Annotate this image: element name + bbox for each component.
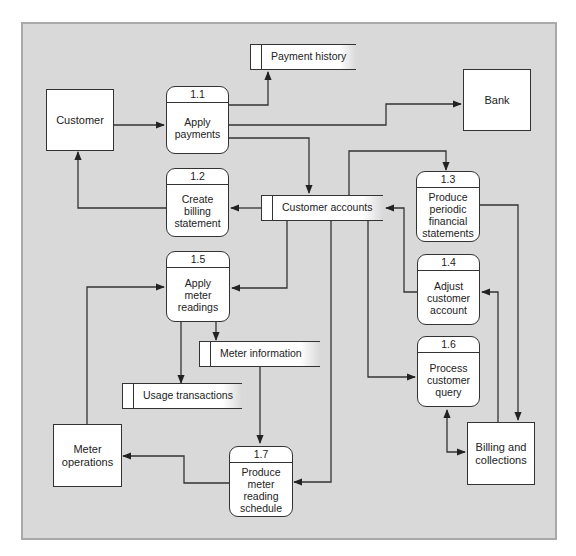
process-1-1-apply-payments: 1.1 Apply payments: [166, 86, 229, 154]
process-id: 1.2: [167, 169, 228, 185]
process-1-5-apply-meter-readings: 1.5 Apply meter readings: [166, 251, 230, 322]
process-name: Adjust customer account: [418, 271, 479, 324]
datastore-tab: [122, 383, 134, 409]
process-name-line: periodic: [430, 203, 467, 215]
process-name-line: query: [435, 386, 461, 398]
datastore-label: Payment history: [262, 44, 356, 70]
datastore-tab: [261, 195, 273, 221]
process-name-line: schedule: [240, 502, 282, 514]
process-name-line: readings: [178, 301, 218, 313]
process-name-line: customer: [427, 292, 470, 304]
entity-meter-operations-label-2: operations: [62, 456, 113, 469]
process-name-line: Apply: [185, 277, 211, 289]
process-1-7-produce-meter-reading-schedule: 1.7 Produce meter reading schedule: [229, 446, 293, 517]
process-id: 1.1: [167, 87, 228, 103]
datastore-tab: [199, 341, 211, 367]
process-id: 1.4: [418, 255, 479, 271]
datastore-label: Usage transactions: [134, 383, 242, 409]
process-name-line: Create: [182, 193, 214, 205]
process-name: Apply meter readings: [167, 268, 229, 321]
process-name-line: Produce: [241, 466, 280, 478]
process-name: Create billing statement: [167, 185, 228, 236]
process-name-line: statements: [422, 227, 473, 239]
process-name-line: Process: [430, 362, 468, 374]
process-id: 1.6: [418, 337, 479, 353]
process-id: 1.3: [417, 172, 479, 188]
entity-meter-operations-label-1: Meter: [73, 443, 101, 456]
process-1-4-adjust-customer-account: 1.4 Adjust customer account: [417, 254, 480, 325]
process-name-line: statement: [174, 217, 220, 229]
datastore-customer-accounts: Customer accounts: [261, 195, 383, 221]
datastore-tab: [250, 44, 262, 70]
process-name-line: customer: [427, 374, 470, 386]
process-name: Produce periodic financial statements: [417, 188, 479, 241]
process-name-line: payments: [175, 128, 221, 140]
process-name-line: financial: [429, 215, 468, 227]
datastore-payment-history: Payment history: [250, 44, 356, 70]
process-1-6-process-customer-query: 1.6 Process customer query: [417, 336, 480, 407]
process-name-line: meter: [248, 478, 275, 490]
entity-billing-and-collections: Billing and collections: [467, 422, 535, 485]
entity-bank-label: Bank: [484, 94, 509, 107]
process-name-line: billing: [184, 205, 211, 217]
entity-meter-operations: Meter operations: [53, 424, 122, 487]
entity-billing-label-2: collections: [475, 454, 526, 467]
process-id: 1.5: [167, 252, 229, 268]
process-name-line: meter: [185, 289, 212, 301]
entity-bank: Bank: [463, 69, 531, 131]
datastore-label: Meter information: [211, 341, 320, 367]
process-name: Produce meter reading schedule: [230, 463, 292, 516]
process-name: Process customer query: [418, 353, 479, 406]
entity-customer: Customer: [46, 89, 114, 151]
datastore-meter-information: Meter information: [199, 341, 320, 367]
entity-customer-label: Customer: [56, 114, 104, 127]
process-name-line: Adjust: [434, 280, 463, 292]
process-1-3-produce-financial-statements: 1.3 Produce periodic financial statement…: [416, 171, 480, 242]
entity-billing-label-1: Billing and: [476, 441, 527, 454]
process-id: 1.7: [230, 447, 292, 463]
process-name-line: Produce: [428, 191, 467, 203]
process-1-2-create-billing-statement: 1.2 Create billing statement: [166, 168, 229, 237]
process-name-line: Apply: [184, 116, 210, 128]
datastore-label: Customer accounts: [273, 195, 383, 221]
process-name-line: account: [430, 304, 467, 316]
datastore-usage-transactions: Usage transactions: [122, 383, 242, 409]
process-name: Apply payments: [167, 103, 228, 153]
process-name-line: reading: [243, 490, 278, 502]
